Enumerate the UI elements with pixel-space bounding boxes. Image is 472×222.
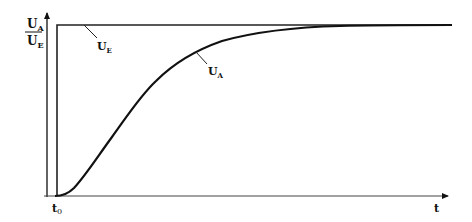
output-response-curve	[55, 25, 452, 196]
svg-text:UA: UA	[27, 17, 44, 33]
step-response-diagram: UA UE UE UA t0 t	[0, 0, 472, 222]
y-axis-label: UA UE	[25, 17, 44, 50]
svg-text:UE: UE	[27, 34, 44, 50]
x-axis-label: t	[434, 202, 440, 215]
input-step-curve	[57, 25, 452, 196]
output-label-leader	[196, 52, 207, 64]
t0-label: t0	[52, 202, 62, 216]
input-step-label: UE	[97, 40, 112, 55]
input-label-leader	[84, 25, 97, 38]
output-response-label: UA	[208, 65, 224, 80]
